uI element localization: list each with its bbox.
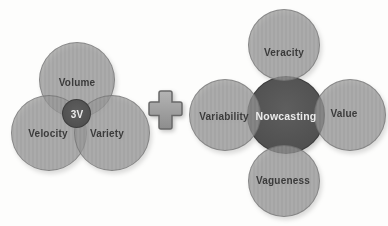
- value-label: Value: [330, 108, 357, 119]
- variability-label: Variability: [199, 111, 248, 122]
- diagram-canvas: Volume Velocity Variety 3V Veracity Vari…: [0, 0, 388, 226]
- veracity-circle: [248, 9, 320, 81]
- veracity-label: Veracity: [264, 47, 304, 58]
- vagueness-label: Vagueness: [256, 175, 310, 186]
- nowcasting-label: Nowcasting: [256, 110, 317, 122]
- nowcasting-flower-diagram: Veracity Variability Value Vagueness Now…: [0, 0, 388, 226]
- plus-icon: [148, 90, 183, 130]
